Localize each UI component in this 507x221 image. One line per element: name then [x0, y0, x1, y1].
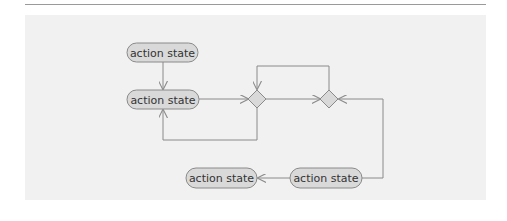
edge-a3-d2 — [339, 99, 383, 178]
action-state-label: action state — [130, 94, 195, 107]
edge-d1-a2-loop — [163, 108, 257, 140]
action-state-node-4[interactable]: action state — [186, 168, 257, 188]
diagram-canvas: action state action state action state a… — [0, 0, 507, 221]
decision-node-1[interactable] — [248, 90, 266, 108]
edge-d2-d1-loop — [257, 66, 329, 90]
action-state-label: action state — [130, 47, 195, 60]
activity-diagram: action state action state action state a… — [0, 0, 507, 221]
decision-node-2[interactable] — [320, 90, 338, 108]
action-state-node-3[interactable]: action state — [290, 168, 362, 188]
action-state-node-1[interactable]: action state — [127, 43, 198, 62]
action-state-node-2[interactable]: action state — [127, 90, 199, 109]
action-state-label: action state — [189, 172, 254, 185]
action-state-label: action state — [293, 172, 358, 185]
